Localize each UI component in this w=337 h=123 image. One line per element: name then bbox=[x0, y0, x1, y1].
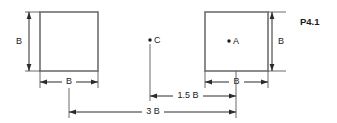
left-to-right-dimension: 3 B bbox=[69, 88, 236, 118]
point-c-dot bbox=[148, 38, 151, 41]
left-to-right-label: 3 B bbox=[146, 106, 160, 116]
point-a: A bbox=[227, 36, 239, 46]
left-square-height-dimension: B bbox=[13, 12, 40, 71]
point-c-label: C bbox=[154, 35, 161, 45]
engineering-diagram: B B B B bbox=[0, 0, 337, 123]
left-square-height-label: B bbox=[16, 36, 22, 46]
c-to-a-label: 1.5 B bbox=[177, 90, 198, 100]
right-square-height-dimension: B bbox=[268, 12, 288, 71]
point-a-label: A bbox=[233, 36, 239, 46]
point-a-dot bbox=[227, 39, 230, 42]
right-square-width-dimension: B bbox=[205, 71, 268, 88]
diagram-canvas: B B B B bbox=[0, 0, 337, 123]
point-c: C bbox=[148, 35, 161, 101]
left-square bbox=[40, 12, 98, 71]
right-square-height-label: B bbox=[278, 36, 284, 46]
right-square-width-label: B bbox=[233, 76, 239, 86]
plate-label: P4.1 bbox=[300, 16, 320, 27]
left-square-width-dimension: B bbox=[40, 71, 98, 88]
left-square-width-label: B bbox=[66, 76, 72, 86]
